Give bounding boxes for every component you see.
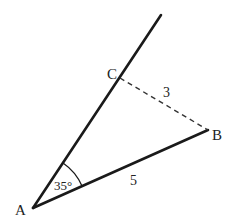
geometry-diagram: A B C 35° 3 5	[0, 0, 240, 221]
segment-label-cb: 3	[163, 85, 170, 100]
segment-label-ab: 5	[130, 173, 137, 188]
point-label-c: C	[107, 66, 117, 82]
angle-label-a: 35°	[54, 178, 72, 193]
point-label-b: B	[212, 127, 222, 143]
point-label-a: A	[15, 202, 26, 218]
